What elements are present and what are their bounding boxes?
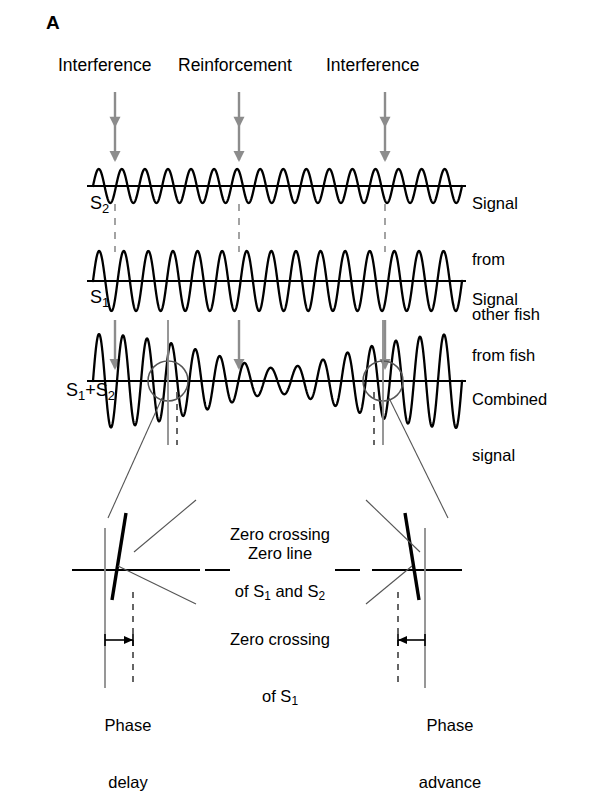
- leader-s1-left: [118, 566, 196, 604]
- event-arrows: [110, 92, 391, 370]
- event-arrow-mid-head-1: [110, 117, 121, 128]
- s1-zero-crossing-slope-left: [112, 513, 126, 600]
- guide-lines-dashed: [115, 204, 385, 252]
- event-arrow-head-1-row1: [110, 151, 121, 162]
- leader-both-right: [366, 500, 420, 552]
- event-arrow-mid-head-2: [234, 117, 245, 128]
- phase-advance-arrowhead: [398, 636, 407, 644]
- event-arrow-mid-head-3: [380, 117, 391, 128]
- label-phase-advance-line2: advance: [390, 773, 510, 792]
- label-phase-delay-line2: delay: [76, 773, 180, 792]
- leader-s1-right: [366, 566, 412, 604]
- callout-connector-right: [389, 398, 448, 518]
- s1-zero-crossing-slope-right: [405, 513, 419, 600]
- phase-delay-arrowhead: [124, 636, 133, 644]
- waveform-traces: [93, 169, 462, 428]
- callout-connector-left: [108, 398, 162, 518]
- detail-panel-artwork: [72, 500, 462, 688]
- event-arrow-head-2-row1: [234, 151, 245, 162]
- leader-both-left: [134, 500, 196, 552]
- event-arrow-head-3-row1: [380, 151, 391, 162]
